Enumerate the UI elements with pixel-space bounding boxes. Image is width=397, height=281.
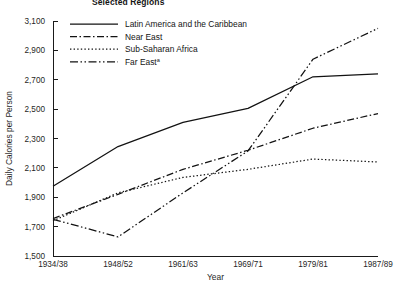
series-line-3 [53, 159, 378, 221]
y-axis-tick-labels: 1,5001,7001,9002,1002,3002,5002,7002,900… [25, 17, 46, 261]
x-axis-tick-label: 1987/89 [363, 260, 393, 269]
legend-label-2: Near East [125, 32, 163, 42]
series-line-2 [53, 114, 378, 219]
series-line-1 [53, 74, 378, 186]
data-series-group [53, 28, 378, 237]
y-axis-tick-label: 2,100 [25, 164, 46, 173]
legend-label-1: Latin America and the Caribbean [125, 19, 247, 29]
legend-superscript-4: a [157, 57, 161, 63]
x-axis-tick-label: 1934/38 [38, 260, 68, 269]
x-axis-tick-label: 1969/71 [233, 260, 263, 269]
x-axis-tick-label: 1979/81 [298, 260, 328, 269]
chart-container: Selected Regions 1,5001,7001,9002,1002,3… [0, 0, 397, 281]
legend-label-4: Far Easta [125, 57, 161, 67]
y-axis-tick-label: 2,300 [25, 135, 46, 144]
axis-frame [53, 21, 378, 256]
y-axis-tick-label: 2,700 [25, 76, 46, 85]
x-axis-title: Year [207, 272, 224, 281]
legend-label-3: Sub-Saharan Africa [125, 44, 198, 54]
x-axis-tick-label: 1948/52 [103, 260, 133, 269]
x-axis-tick-labels: 1934/381948/521961/631969/711979/811987/… [38, 260, 393, 269]
y-axis-tick-label: 1,700 [25, 223, 46, 232]
x-axis-tick-label: 1961/63 [168, 260, 198, 269]
series-line-4 [53, 28, 378, 237]
y-axis-title: Daily Calories per Person [4, 91, 14, 186]
y-axis-tick-label: 2,500 [25, 105, 46, 114]
y-axis-tick-label: 2,900 [25, 46, 46, 55]
chart-legend: Latin America and the CaribbeanNear East… [70, 19, 247, 67]
line-chart-plot: 1,5001,7001,9002,1002,3002,5002,7002,900… [0, 0, 397, 281]
y-axis-tick-label: 1,900 [25, 193, 46, 202]
y-axis-tick-label: 3,100 [25, 17, 46, 26]
